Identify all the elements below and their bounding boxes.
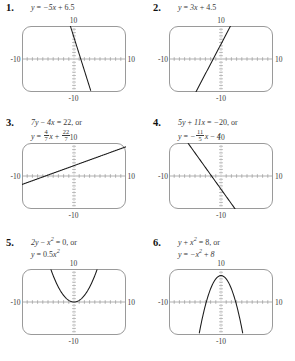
axis-label-x-max: 10 <box>275 55 283 64</box>
axis-label-y-min: -10 <box>216 337 226 346</box>
equation-text: y + x2 = 8, ory = −x2 + 8 <box>178 237 220 260</box>
axis-label-y-max: 10 <box>70 133 78 142</box>
axis-label-x-min: -10 <box>158 298 168 307</box>
axis-label-x-min: -10 <box>158 172 168 181</box>
axis-label-y-max: 10 <box>217 259 225 268</box>
problem-number: 3. <box>6 117 14 128</box>
axis-label-y-max: 10 <box>70 16 78 25</box>
graph-box: 10-10-1010 <box>22 26 126 92</box>
axis-label-x-min: -10 <box>158 55 168 64</box>
graph-box: 10-10-1010 <box>169 143 273 209</box>
problem-number: 4. <box>153 117 161 128</box>
graph-plot <box>169 26 273 92</box>
graph-window: 10-10-1010 <box>147 26 295 92</box>
graph-window: 10-10-1010 <box>0 143 147 209</box>
axis-label-x-max: 10 <box>275 172 283 181</box>
axis-label-x-max: 10 <box>128 172 136 181</box>
axis-label-x-max: 10 <box>275 298 283 307</box>
problem-number: 1. <box>6 2 14 13</box>
axis-label-x-max: 10 <box>128 55 136 64</box>
axis-label-x-min: -10 <box>11 298 21 307</box>
axis-label-y-min: -10 <box>69 94 79 103</box>
axis-label-y-max: 10 <box>70 259 78 268</box>
problem-panel-1: 1.y = −5x + 6.510-10-1010 <box>0 0 147 115</box>
graph-window: 10-10-1010 <box>0 269 147 335</box>
equation-text: 2y − x2 = 0, ory = 0.5x2 <box>31 237 77 260</box>
graph-plot <box>22 143 126 209</box>
graph-plot <box>22 26 126 92</box>
equation-text: 5y + 11x = −20, ory = −115x − 4 <box>178 117 238 143</box>
axis-label-y-max: 10 <box>217 133 225 142</box>
graph-window: 10-10-1010 <box>147 269 295 335</box>
graph-box: 10-10-1010 <box>22 143 126 209</box>
problem-panel-5: 5.2y − x2 = 0, ory = 0.5x210-10-1010 <box>0 235 147 361</box>
axis-label-y-min: -10 <box>69 211 79 220</box>
problem-number: 6. <box>153 237 161 248</box>
graph-plot <box>169 143 273 209</box>
axis-label-x-min: -10 <box>11 55 21 64</box>
problem-grid: 1.y = −5x + 6.510-10-10102.y = 3x + 4.51… <box>0 0 295 361</box>
graph-plot <box>22 269 126 335</box>
graph-window: 10-10-1010 <box>147 143 295 209</box>
axis-label-y-max: 10 <box>217 16 225 25</box>
axis-label-y-min: -10 <box>216 211 226 220</box>
problem-number: 2. <box>153 2 161 13</box>
problem-panel-3: 3.7y − 4x = 22, ory = 47x + 22710-10-101… <box>0 115 147 235</box>
graph-window: 10-10-1010 <box>0 26 147 92</box>
graph-box: 10-10-1010 <box>22 269 126 335</box>
problem-number: 5. <box>6 237 14 248</box>
graph-box: 10-10-1010 <box>169 26 273 92</box>
problem-panel-4: 4.5y + 11x = −20, ory = −115x − 410-10-1… <box>147 115 295 235</box>
axis-label-x-min: -10 <box>11 172 21 181</box>
axis-label-y-min: -10 <box>216 94 226 103</box>
axis-label-y-min: -10 <box>69 337 79 346</box>
equation-text: y = 3x + 4.5 <box>178 2 216 14</box>
graph-plot <box>169 269 273 335</box>
problem-panel-2: 2.y = 3x + 4.510-10-1010 <box>147 0 295 115</box>
answer-key-sheet: 1.y = −5x + 6.510-10-10102.y = 3x + 4.51… <box>0 0 295 361</box>
graph-box: 10-10-1010 <box>169 269 273 335</box>
axis-label-x-max: 10 <box>128 298 136 307</box>
equation-text: y = −5x + 6.5 <box>31 2 75 14</box>
problem-panel-6: 6.y + x2 = 8, ory = −x2 + 810-10-1010 <box>147 235 295 361</box>
